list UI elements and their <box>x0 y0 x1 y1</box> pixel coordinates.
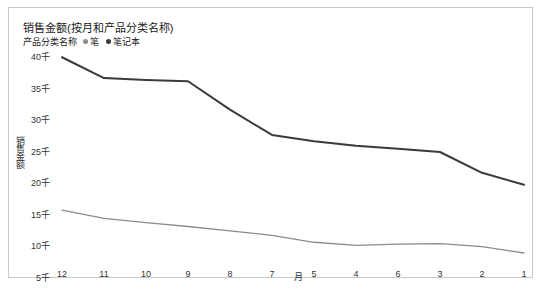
y-axis-tick: 10千 <box>31 239 50 252</box>
y-axis-tick: 15千 <box>31 207 50 220</box>
visualization-frame: 销售金额(按月和产品分类名称) 产品分类名称 笔 笔记本 销售金额 40千35千… <box>8 7 533 278</box>
y-axis-tick: 5千 <box>36 271 50 284</box>
x-axis-tick: 4 <box>353 269 358 279</box>
x-axis-tick: 5 <box>311 269 316 279</box>
y-axis-tick: 35千 <box>31 81 50 94</box>
legend-item-label: 笔 <box>90 35 99 48</box>
x-axis-tick: 12 <box>57 269 67 279</box>
x-axis-tick: 3 <box>437 269 442 279</box>
x-axis-tick: 2 <box>479 269 484 279</box>
legend-title: 产品分类名称 <box>23 35 77 48</box>
legend: 产品分类名称 笔 笔记本 <box>23 35 143 48</box>
plot-area <box>55 49 531 277</box>
line-series[interactable] <box>62 57 524 185</box>
y-axis-tick: 20千 <box>31 176 50 189</box>
x-axis-tick: 1 <box>521 269 526 279</box>
legend-swatch-icon <box>106 39 111 44</box>
page-title: 销售金额(按月和产品分类名称) <box>23 19 173 35</box>
x-axis-tick: 6 <box>395 269 400 279</box>
x-axis-tick-labels: 121110987546321 <box>55 269 531 283</box>
x-axis-tick: 10 <box>141 269 151 279</box>
legend-item-pen[interactable]: 笔 <box>83 35 99 48</box>
y-axis-tick-labels: 40千35千30千25千20千15千10千5千 <box>9 49 53 277</box>
legend-swatch-icon <box>83 39 88 44</box>
legend-item-label: 笔记本 <box>113 35 140 48</box>
x-axis-tick: 9 <box>185 269 190 279</box>
line-series-svg <box>55 49 531 277</box>
x-axis-tick: 11 <box>99 269 108 279</box>
x-axis-tick: 7 <box>269 269 274 279</box>
x-axis-title: 月 <box>294 270 303 283</box>
y-axis-tick: 30千 <box>31 113 50 126</box>
line-series[interactable] <box>62 210 524 253</box>
legend-item-notebook[interactable]: 笔记本 <box>106 35 140 48</box>
x-axis-tick: 8 <box>227 269 232 279</box>
y-axis-tick: 40千 <box>31 50 50 63</box>
y-axis-tick: 25千 <box>31 144 50 157</box>
